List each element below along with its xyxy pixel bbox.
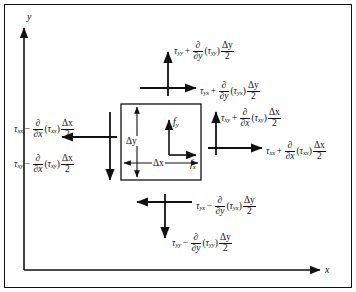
- operator: +: [209, 86, 217, 96]
- partial-derivative-fraction: ∂∂x: [33, 119, 44, 140]
- partial-denominator: ∂x: [33, 130, 44, 140]
- two-denominator: 2: [243, 207, 256, 217]
- derivative-variable: x: [38, 164, 42, 174]
- y-axis-label: y: [27, 11, 31, 22]
- right-paren: ): [217, 46, 220, 56]
- right-paren: ): [57, 159, 60, 169]
- operator: −: [23, 159, 31, 169]
- delta-over-two-fraction: Δx2: [313, 141, 326, 162]
- delta-over-two-fraction: Δx2: [268, 108, 281, 129]
- derivative-variable: y: [198, 51, 202, 61]
- delta-over-two-fraction: Δy2: [221, 41, 234, 62]
- body-force-y-subscript: y: [176, 121, 179, 128]
- partial-denominator: ∂x: [285, 152, 296, 162]
- partial-denominator: ∂y: [193, 52, 204, 62]
- partial-derivative-fraction: ∂∂x: [33, 154, 44, 175]
- bottom-normal-stress-label: τyy−∂∂y(τyy)Δy2: [172, 233, 233, 254]
- delta-y-label: Δy: [125, 136, 138, 146]
- delta-over-two-fraction: Δy2: [243, 196, 256, 217]
- top-shear-stress-label: τyx+∂∂y(τyx)Δy2: [200, 81, 261, 102]
- derivative-variable: x: [290, 151, 294, 161]
- derivative-variable: y: [196, 243, 200, 253]
- two-denominator: 2: [61, 165, 74, 175]
- left-normal-stress-label: τxx−∂∂x(τxx)Δx2: [14, 119, 75, 140]
- body-force-x-label: fx: [190, 158, 196, 170]
- operator: +: [183, 46, 191, 56]
- derivative-variable: y: [224, 91, 228, 101]
- right-paren: ): [243, 86, 246, 96]
- delta-over-two-fraction: Δy2: [247, 81, 260, 102]
- delta-over-two-fraction: Δx2: [61, 154, 74, 175]
- right-paren: ): [264, 113, 267, 123]
- right-normal-stress-label: τxx+∂∂x(τxx)Δx2: [266, 141, 327, 162]
- derivative-variable: y: [220, 206, 224, 216]
- operator: −: [205, 201, 213, 211]
- two-denominator: 2: [221, 52, 234, 62]
- operator: +: [275, 146, 283, 156]
- right-paren: ): [215, 238, 218, 248]
- two-denominator: 2: [61, 130, 74, 140]
- two-denominator: 2: [313, 152, 326, 162]
- partial-denominator: ∂y: [215, 207, 226, 217]
- partial-denominator: ∂x: [33, 165, 44, 175]
- delta-x-label: Δx: [152, 158, 165, 168]
- top-normal-stress-label: τyy+∂∂y(τyy)Δy2: [174, 41, 235, 62]
- partial-derivative-fraction: ∂∂x: [240, 108, 251, 129]
- two-denominator: 2: [219, 244, 232, 254]
- delta-over-two-fraction: Δy2: [219, 233, 232, 254]
- bottom-shear-stress-label: τyx−∂∂y(τyx)Δy2: [196, 196, 257, 217]
- partial-denominator: ∂x: [240, 119, 251, 129]
- partial-derivative-fraction: ∂∂y: [191, 233, 202, 254]
- stress-element-figure: y x Δy Δx fy fx τyy+∂∂y(τyy)Δy2 τyx+∂∂y(…: [0, 0, 356, 292]
- body-force-y-label: fy: [173, 116, 179, 128]
- delta-over-two-fraction: Δx2: [61, 119, 74, 140]
- two-denominator: 2: [247, 92, 260, 102]
- partial-denominator: ∂y: [219, 92, 230, 102]
- right-paren: ): [309, 146, 312, 156]
- derivative-variable: x: [245, 118, 249, 128]
- right-shear-stress-label: τxy+∂∂x(τxy)Δx2: [221, 108, 282, 129]
- derivative-variable: x: [38, 129, 42, 139]
- body-force-x-subscript: x: [193, 163, 196, 170]
- partial-derivative-fraction: ∂∂y: [193, 41, 204, 62]
- operator: −: [23, 124, 31, 134]
- partial-derivative-fraction: ∂∂y: [219, 81, 230, 102]
- partial-denominator: ∂y: [191, 244, 202, 254]
- operator: −: [181, 238, 189, 248]
- two-denominator: 2: [268, 119, 281, 129]
- operator: +: [230, 113, 238, 123]
- partial-derivative-fraction: ∂∂y: [215, 196, 226, 217]
- right-paren: ): [239, 201, 242, 211]
- right-paren: ): [57, 124, 60, 134]
- partial-derivative-fraction: ∂∂x: [285, 141, 296, 162]
- x-axis-label: x: [325, 264, 329, 275]
- left-shear-stress-label: τxy−∂∂x(τxy)Δx2: [14, 154, 75, 175]
